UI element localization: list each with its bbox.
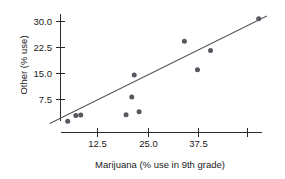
data-point (124, 112, 129, 117)
data-point (78, 113, 83, 118)
y-tick-label-30: 30.0 (34, 16, 53, 27)
x-axis-title: Marijuana (% use in 9th grade) (95, 159, 225, 170)
x-tick-label-25: 25.0 (139, 138, 158, 149)
y-tick-label-7-5: 7.5 (39, 94, 52, 105)
data-point (132, 72, 137, 77)
data-points-group (65, 16, 261, 124)
data-point (182, 39, 187, 44)
regression-line (50, 16, 267, 123)
data-point (208, 48, 213, 53)
data-point (137, 109, 142, 114)
x-tick-label-12-5: 12.5 (88, 138, 107, 149)
y-tick-label-22-5: 22.5 (34, 42, 53, 53)
data-point (73, 113, 78, 118)
data-point (65, 119, 70, 124)
y-axis-title: Other (% use) (18, 35, 29, 94)
plot-area: 30.0 22.5 15.0 7.5 12.5 25.0 37.5 Mariju… (0, 0, 285, 179)
data-point (195, 67, 200, 72)
y-tick-label-15: 15.0 (34, 68, 53, 79)
x-tick-label-37-5: 37.5 (189, 138, 208, 149)
scatter-chart: 30.0 22.5 15.0 7.5 12.5 25.0 37.5 Mariju… (0, 0, 285, 179)
data-point (129, 95, 134, 100)
data-point (256, 16, 261, 21)
